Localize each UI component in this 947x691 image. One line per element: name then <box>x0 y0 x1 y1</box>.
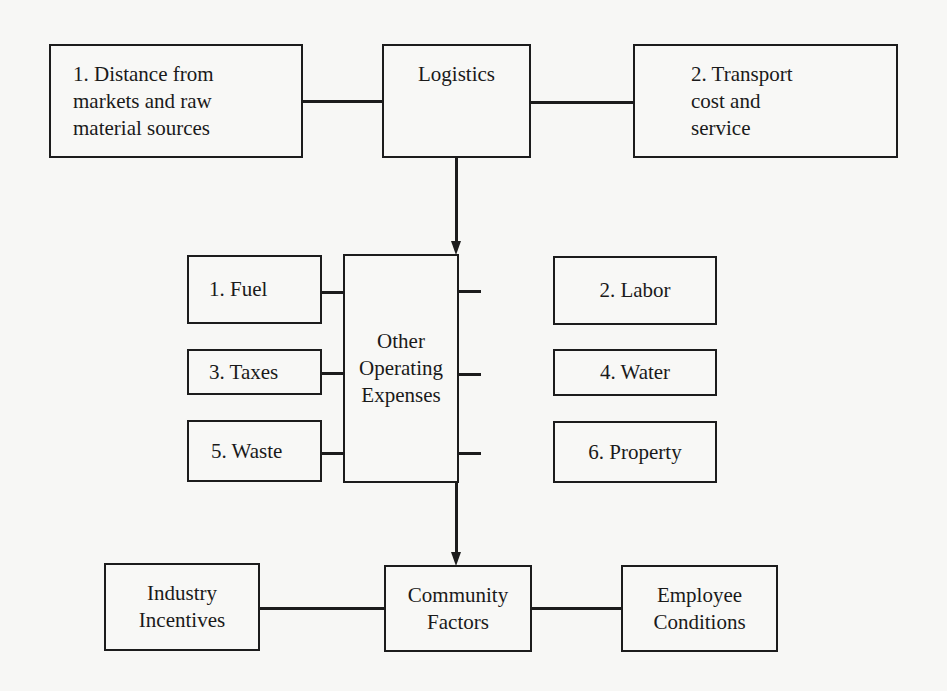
transport-line-3: service <box>691 115 896 142</box>
transport-box: 2. Transport cost and service <box>633 44 898 158</box>
connector-water <box>459 373 481 376</box>
arrow-expenses-to-community <box>455 483 458 555</box>
labor-label: 2. Labor <box>599 277 670 304</box>
community-line-2: Factors <box>427 609 489 636</box>
distance-box: 1. Distance from markets and raw materia… <box>49 44 303 158</box>
taxes-box: 3. Taxes <box>187 349 322 395</box>
connector-waste <box>322 452 344 455</box>
distance-line-3: material sources <box>73 115 301 142</box>
logistics-label: Logistics <box>418 54 495 94</box>
connector-labor <box>459 290 481 293</box>
transport-line-1: 2. Transport <box>691 61 896 88</box>
employee-line-1: Employee <box>657 582 742 609</box>
fuel-box: 1. Fuel <box>187 255 322 324</box>
other-operating-expenses-box: Other Operating Expenses <box>343 254 459 483</box>
arrowhead-icon <box>451 241 461 255</box>
distance-line-1: 1. Distance from <box>73 61 301 88</box>
logistics-box: Logistics <box>382 44 531 158</box>
fuel-label: 1. Fuel <box>209 276 320 303</box>
connector-taxes <box>322 372 344 375</box>
arrow-logistics-to-expenses <box>455 158 458 244</box>
connector-community-employee <box>532 607 622 610</box>
waste-label: 5. Waste <box>211 438 320 465</box>
arrowhead-icon <box>451 552 461 566</box>
distance-line-2: markets and raw <box>73 88 301 115</box>
employee-line-2: Conditions <box>653 609 745 636</box>
waste-box: 5. Waste <box>187 420 322 482</box>
community-line-1: Community <box>408 582 508 609</box>
expenses-line-2: Operating <box>359 355 443 382</box>
connector-logistics-transport <box>531 101 634 104</box>
expenses-line-1: Other <box>377 328 425 355</box>
connector-industry-community <box>260 607 385 610</box>
property-box: 6. Property <box>553 421 717 483</box>
connector-distance-logistics <box>303 100 382 103</box>
water-box: 4. Water <box>553 349 717 396</box>
taxes-label: 3. Taxes <box>209 359 320 386</box>
property-label: 6. Property <box>588 439 681 466</box>
expenses-line-3: Expenses <box>361 382 440 409</box>
transport-line-2: cost and <box>691 88 896 115</box>
industry-line-2: Incentives <box>139 607 225 634</box>
community-factors-box: Community Factors <box>384 565 532 652</box>
labor-box: 2. Labor <box>553 256 717 325</box>
employee-conditions-box: Employee Conditions <box>621 565 778 652</box>
connector-property <box>459 452 481 455</box>
industry-incentives-box: Industry Incentives <box>104 563 260 651</box>
connector-fuel <box>322 291 344 294</box>
water-label: 4. Water <box>600 359 670 386</box>
industry-line-1: Industry <box>147 580 217 607</box>
